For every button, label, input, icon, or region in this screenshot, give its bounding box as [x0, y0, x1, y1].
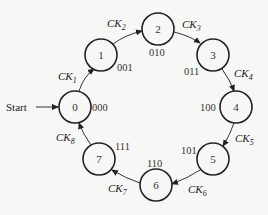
edge-label-ck5: CK5 — [235, 132, 254, 147]
state-1-code: 001 — [117, 62, 133, 73]
state-diagram: Start CK1 CK2 CK3 CK4 CK5 CK6 CK7 CK8 0 … — [0, 0, 268, 215]
state-3-code: 011 — [184, 66, 199, 77]
state-2: 2 — [142, 13, 174, 45]
edge-label-ck4: CK4 — [234, 67, 253, 82]
edge-4-5 — [223, 123, 234, 146]
state-6: 6 — [140, 169, 172, 201]
edge-1-2 — [113, 31, 142, 44]
svg-text:2: 2 — [155, 23, 161, 35]
svg-text:6: 6 — [153, 179, 159, 191]
state-3: 3 — [197, 39, 229, 71]
state-7-code: 111 — [115, 141, 130, 152]
state-1: 1 — [85, 39, 117, 71]
state-0-code: 000 — [92, 102, 108, 113]
state-0: 0 — [59, 91, 91, 123]
svg-text:0: 0 — [72, 101, 78, 113]
edge-label-ck7: CK7 — [108, 182, 128, 197]
state-5-code: 101 — [181, 145, 197, 156]
edge-label-ck3: CK3 — [182, 18, 201, 33]
svg-text:7: 7 — [96, 153, 102, 165]
state-7: 7 — [83, 143, 115, 175]
state-4-code: 100 — [200, 102, 216, 113]
edge-label-ck2: CK2 — [107, 17, 126, 32]
edge-5-6 — [172, 170, 200, 184]
edge-label-ck1: CK1 — [58, 70, 77, 85]
svg-text:1: 1 — [98, 49, 104, 61]
edge-label-ck8: CK8 — [56, 131, 75, 146]
svg-text:5: 5 — [210, 153, 216, 165]
edge-2-3 — [174, 32, 200, 43]
edge-label-ck6: CK6 — [188, 183, 207, 198]
start-label: Start — [6, 101, 27, 113]
edge-0-1 — [79, 69, 94, 91]
edge-3-4 — [222, 69, 234, 91]
edge-7-0 — [79, 123, 91, 145]
state-5: 5 — [197, 143, 229, 175]
svg-text:3: 3 — [210, 49, 216, 61]
state-4: 4 — [220, 91, 252, 123]
svg-text:4: 4 — [233, 101, 239, 113]
state-6-code: 110 — [147, 158, 162, 169]
state-2-code: 010 — [149, 47, 165, 58]
